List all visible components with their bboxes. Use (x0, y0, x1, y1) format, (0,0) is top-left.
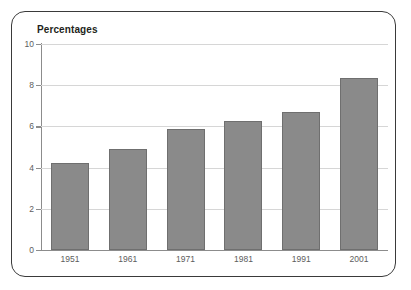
y-axis-tick-label: 8 (12, 80, 34, 90)
x-axis-tick-label: 1951 (60, 254, 79, 264)
bar-1961 (109, 149, 147, 250)
x-axis-tick-label: 1981 (234, 254, 253, 264)
gridline (41, 209, 388, 210)
y-axis-tick-labels: 0246810 (8, 0, 34, 290)
x-axis-tick-label: 2001 (350, 254, 369, 264)
plot-area (41, 44, 388, 250)
gridline (41, 168, 388, 169)
y-axis-tick (36, 209, 41, 210)
x-axis-tick-label: 1991 (292, 254, 311, 264)
y-axis-tick (36, 44, 41, 45)
y-axis-tick (36, 126, 41, 127)
y-axis-tick-label: 4 (12, 163, 34, 173)
bar-1991 (282, 112, 320, 250)
bar-1981 (224, 121, 262, 250)
y-axis-tick (36, 168, 41, 169)
bar-1971 (167, 129, 205, 250)
x-axis-tick-label: 1971 (176, 254, 195, 264)
x-axis-tick-label: 1961 (118, 254, 137, 264)
gridline (41, 126, 388, 127)
bar-chart-figure: Percentages 0246810 19511961197119811991… (0, 0, 411, 290)
gridline (41, 85, 388, 86)
gridline (41, 250, 388, 251)
bar-2001 (340, 78, 378, 250)
y-axis-tick-label: 10 (12, 39, 34, 49)
y-axis-tick-label: 0 (12, 245, 34, 255)
y-axis-tick (36, 85, 41, 86)
chart-title: Percentages (37, 24, 98, 35)
y-axis-tick-label: 2 (12, 204, 34, 214)
gridline (41, 44, 388, 45)
bar-1951 (51, 163, 89, 250)
y-axis-tick-label: 6 (12, 121, 34, 131)
y-axis-tick (36, 250, 41, 251)
